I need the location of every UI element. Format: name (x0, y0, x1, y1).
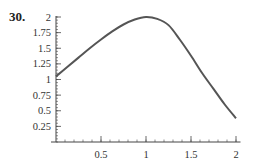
x-tick-label: 1 (143, 149, 148, 160)
y-tick-label: 2 (46, 12, 51, 23)
y-tick-label: 0.5 (38, 105, 51, 116)
tick-labels: 0.250.50.7511.251.51.7520.511.52 (33, 12, 239, 161)
axes (51, 16, 241, 142)
y-tick-label: 0.75 (33, 90, 51, 101)
x-tick-label: 0.5 (94, 149, 107, 160)
y-tick-label: 1.5 (38, 43, 51, 54)
y-tick-label: 1.75 (33, 27, 51, 38)
x-tick-label: 2 (233, 149, 238, 160)
function-curve (56, 17, 236, 118)
y-tick-label: 0.25 (33, 121, 51, 132)
x-tick-label: 1.5 (184, 149, 197, 160)
line-chart: 0.250.50.7511.251.51.7520.511.52 (0, 0, 255, 164)
y-tick-label: 1 (46, 74, 51, 85)
axis-ticks (56, 17, 236, 142)
y-tick-label: 1.25 (33, 58, 51, 69)
